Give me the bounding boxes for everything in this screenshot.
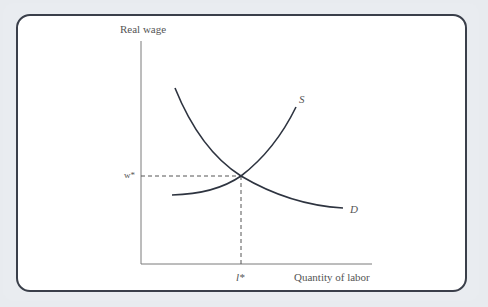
x-axis-label: Quantity of labor [294, 271, 370, 283]
demand-curve [175, 88, 343, 208]
equilibrium-wage-label: w* [124, 170, 135, 180]
y-axis-label: Real wage [120, 23, 166, 35]
supply-label: S [299, 93, 305, 105]
demand-label: D [350, 203, 358, 215]
supply-demand-diagram [0, 0, 488, 307]
equilibrium-quantity-label: l* [236, 271, 245, 283]
